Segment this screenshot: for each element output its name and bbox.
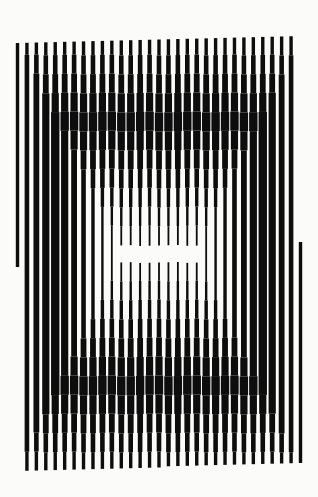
- vertical-line: [174, 39, 182, 466]
- vertical-line: [221, 38, 229, 465]
- vertical-line: [145, 40, 153, 468]
- op-art-line-pattern: [0, 0, 318, 497]
- vertical-line: [164, 39, 172, 466]
- vertical-line: [127, 40, 135, 468]
- vertical-line: [155, 40, 163, 468]
- vertical-line: [193, 39, 201, 466]
- vertical-line: [79, 41, 87, 469]
- vertical-line: [240, 37, 248, 464]
- vertical-line: [108, 41, 116, 469]
- vertical-line: [25, 43, 30, 471]
- vertical-line: [299, 242, 302, 463]
- vertical-line: [259, 37, 267, 464]
- vertical-line: [249, 37, 257, 464]
- vertical-line: [211, 38, 219, 465]
- vertical-line: [183, 39, 191, 466]
- vertical-line: [89, 41, 97, 469]
- vertical-line: [16, 43, 19, 267]
- vertical-line: [279, 36, 285, 463]
- vertical-line: [70, 42, 78, 470]
- vertical-line: [289, 36, 294, 463]
- vertical-line: [230, 38, 238, 465]
- vertical-line: [202, 38, 210, 465]
- vertical-line: [136, 40, 144, 468]
- vertical-line: [60, 42, 68, 470]
- vertical-line: [98, 41, 106, 469]
- vertical-line: [42, 42, 49, 470]
- vertical-line: [269, 37, 276, 464]
- vertical-line: [117, 40, 125, 468]
- vertical-line: [51, 42, 59, 470]
- vertical-line: [33, 43, 39, 471]
